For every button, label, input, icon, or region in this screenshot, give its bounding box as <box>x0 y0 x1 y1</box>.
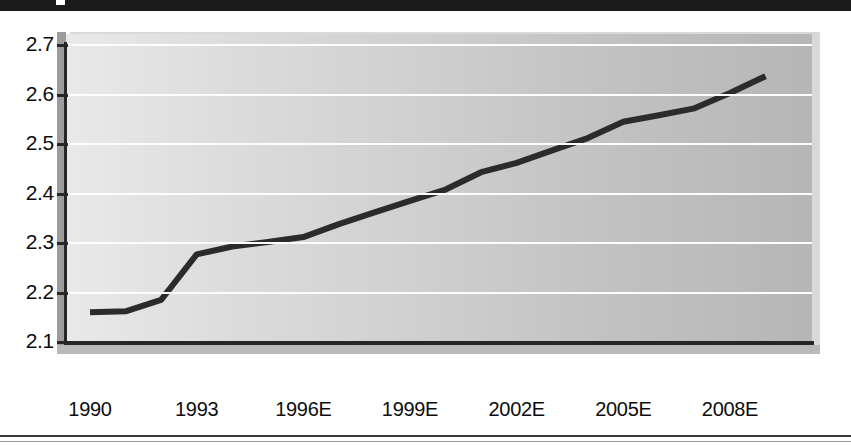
y-axis-tick <box>57 292 68 295</box>
gridline <box>66 193 812 195</box>
y-axis-label: 2.6 <box>2 82 54 106</box>
page-top-band-notch <box>56 0 65 5</box>
x-axis-label: 1993 <box>175 398 218 421</box>
y-axis-tick <box>57 44 68 47</box>
x-axis-label: 2005E <box>595 398 651 421</box>
y-axis-label: 2.5 <box>2 131 54 155</box>
x-axis-label: 1996E <box>275 398 331 421</box>
y-axis-label: 2.1 <box>2 329 54 353</box>
data-line-series <box>66 34 812 342</box>
x-axis-band <box>57 345 820 354</box>
page-bottom-rule <box>0 435 851 437</box>
x-axis-label: 1999E <box>382 398 438 421</box>
y-axis-label: 2.4 <box>2 181 54 205</box>
page-top-band <box>0 0 851 11</box>
gridline <box>66 44 812 46</box>
page-bottom-rule-secondary <box>0 441 851 442</box>
y-axis-label: 2.7 <box>2 32 54 56</box>
y-axis-tick <box>57 143 68 146</box>
gridline <box>66 242 812 244</box>
x-axis-line <box>64 341 814 345</box>
y-axis-tick <box>57 341 68 344</box>
y-axis-tick <box>57 193 68 196</box>
gridline <box>66 143 812 145</box>
x-axis-label: 1990 <box>68 398 111 421</box>
y-axis-label: 2.3 <box>2 230 54 254</box>
y-axis-tick <box>57 94 68 97</box>
y-axis-tick <box>57 242 68 245</box>
chart-figure: 2.72.62.52.42.32.22.1 199019931996E1999E… <box>0 0 851 445</box>
gridline <box>66 94 812 96</box>
y-axis-label: 2.2 <box>2 280 54 304</box>
plot-area <box>66 34 812 342</box>
x-axis-label: 2002E <box>488 398 544 421</box>
x-axis-label: 2008E <box>702 398 758 421</box>
gridline <box>66 292 812 294</box>
